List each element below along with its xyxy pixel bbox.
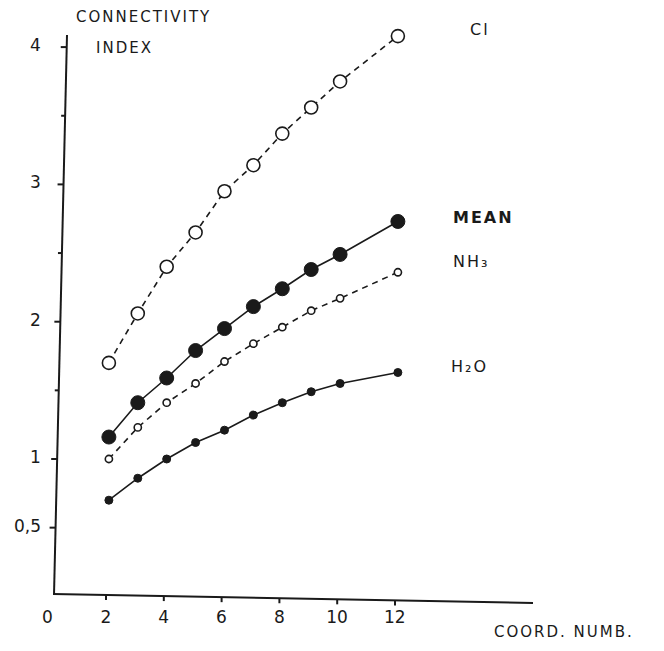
y-axis-line: [54, 35, 67, 595]
data-point-marker: [131, 307, 144, 320]
data-point-marker: [134, 424, 141, 431]
y-axis-title-line2: INDEX: [96, 39, 153, 57]
series-cl: [102, 30, 404, 370]
data-point-marker: [276, 127, 289, 140]
data-point-marker: [217, 322, 231, 336]
x-tick-label: 0: [42, 607, 53, 627]
x-tick-label: 10: [326, 607, 348, 627]
data-point-marker: [189, 226, 202, 239]
y-tick-label: 2: [30, 310, 41, 330]
series-label-nh3: NH₃: [453, 252, 489, 271]
x-axis-line: [53, 594, 533, 603]
y-tick-label: 4: [30, 35, 41, 55]
data-point-marker: [105, 496, 113, 504]
data-point-marker: [189, 344, 203, 358]
series-label-mean: MEAN: [453, 208, 514, 227]
data-point-marker: [105, 455, 112, 462]
x-tick-label: 4: [158, 607, 169, 627]
data-point-marker: [394, 369, 402, 377]
data-point-marker: [334, 75, 347, 88]
y-tick-label: 1: [30, 447, 41, 467]
plot-area: [102, 30, 405, 505]
x-tick-label: 8: [274, 607, 285, 627]
data-point-marker: [160, 371, 174, 385]
data-point-marker: [102, 356, 115, 369]
data-point-marker: [192, 439, 200, 447]
x-tick-label: 2: [101, 607, 112, 627]
data-point-marker: [163, 399, 170, 406]
data-point-marker: [307, 388, 315, 396]
series-label-h2o: H₂O: [451, 357, 488, 376]
data-point-marker: [250, 340, 257, 347]
data-point-marker: [275, 282, 289, 296]
data-point-marker: [192, 380, 199, 387]
chart-canvas: [0, 0, 664, 651]
data-point-marker: [160, 260, 173, 273]
x-tick-label: 6: [216, 607, 227, 627]
data-point-marker: [336, 379, 344, 387]
series-line: [109, 373, 398, 501]
axes: [50, 35, 533, 605]
data-point-marker: [278, 399, 286, 407]
data-point-marker: [279, 324, 286, 331]
series-nh3: [105, 269, 401, 463]
data-point-marker: [391, 30, 404, 43]
y-axis-title-line1: CONNECTIVITY: [76, 8, 211, 26]
data-point-marker: [246, 300, 260, 314]
data-point-marker: [305, 101, 318, 114]
data-point-marker: [308, 307, 315, 314]
data-point-marker: [102, 430, 116, 444]
data-point-marker: [336, 295, 343, 302]
data-point-marker: [333, 247, 347, 261]
data-point-marker: [247, 159, 260, 172]
y-tick-label: 0,5: [14, 516, 41, 536]
data-point-marker: [134, 474, 142, 482]
data-point-marker: [221, 358, 228, 365]
data-point-marker: [249, 411, 257, 419]
data-point-marker: [391, 214, 405, 228]
y-tick-label: 3: [30, 172, 41, 192]
series-mean: [102, 214, 405, 444]
data-point-marker: [304, 263, 318, 277]
x-axis-title: COORD. NUMB.: [494, 623, 634, 641]
data-point-marker: [131, 396, 145, 410]
series-line: [109, 221, 398, 437]
x-tick-label: 12: [384, 607, 406, 627]
data-point-marker: [163, 455, 171, 463]
series-label-cl: Cl: [470, 20, 490, 39]
series-h2o: [105, 369, 402, 505]
data-point-marker: [394, 269, 401, 276]
data-point-marker: [218, 185, 231, 198]
data-point-marker: [220, 426, 228, 434]
